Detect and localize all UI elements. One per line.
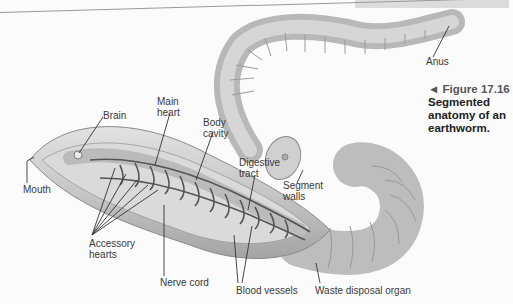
label-blood-vessels: Blood vessels [236,285,298,296]
label-nerve-cord: Nerve cord [160,277,209,288]
label-digestive-tract: Digestive tract [239,157,289,179]
worm-upper-body [227,22,452,150]
label-main-heart: Main heart [157,96,187,118]
figure-title: Segmented anatomy of an earthworm. [428,96,506,134]
figure-caption: ◄ Figure 17.16 Segmented anatomy of an e… [428,83,513,135]
label-mouth: Mouth [23,184,51,195]
label-body-cavity: Body cavity [203,117,235,139]
label-segment-walls: Segment walls [283,180,327,202]
figure-number: ◄ Figure 17.16 [428,83,513,96]
label-accessory-hearts: Accessory hearts [89,238,141,260]
label-waste-disposal-organ: Waste disposal organ [315,285,411,296]
label-brain: Brain [103,110,126,121]
label-anus: Anus [426,56,449,67]
caption-arrow-icon: ◄ [428,83,439,95]
